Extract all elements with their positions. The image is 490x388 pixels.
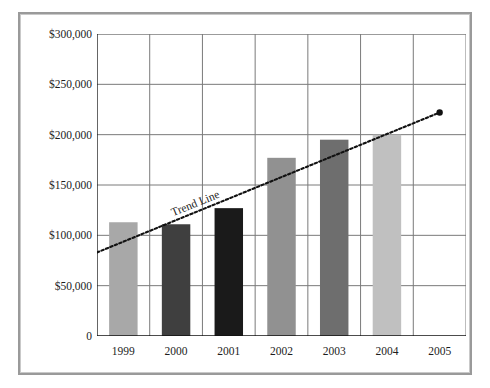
x-axis-tick-label: 2000 [165, 345, 188, 357]
y-axis-tick-label: $50,000 [55, 280, 92, 292]
x-axis-tick-label: 2005 [428, 345, 451, 357]
bar-2000 [162, 224, 190, 336]
plot-svg [97, 34, 466, 336]
y-axis-tick-label: $150,000 [49, 179, 92, 191]
x-axis-tick-label: 2003 [323, 345, 346, 357]
bar-2004 [373, 135, 401, 336]
y-axis-tick-label: 0 [86, 330, 92, 342]
x-axis-tick-label: 2001 [217, 345, 240, 357]
chart-figure: 0$50,000$100,000$150,000$200,000$250,000… [0, 0, 490, 388]
y-axis-tick-label: $250,000 [49, 78, 92, 90]
y-axis-labels: 0$50,000$100,000$150,000$200,000$250,000… [0, 0, 92, 388]
y-axis-tick-label: $200,000 [49, 129, 92, 141]
bar-2002 [267, 158, 295, 336]
x-axis-tick-label: 2004 [375, 345, 398, 357]
plot-area [97, 34, 466, 336]
bar-2003 [320, 140, 348, 336]
bar-2001 [215, 208, 243, 336]
bar-1999 [109, 222, 137, 336]
trend-line-end-dot [436, 109, 442, 115]
y-axis-tick-label: $300,000 [49, 28, 92, 40]
x-axis-labels: 1999200020012002200320042005 [97, 345, 466, 367]
y-axis-tick-label: $100,000 [49, 229, 92, 241]
x-axis-tick-label: 2002 [270, 345, 293, 357]
x-axis-tick-label: 1999 [112, 345, 135, 357]
